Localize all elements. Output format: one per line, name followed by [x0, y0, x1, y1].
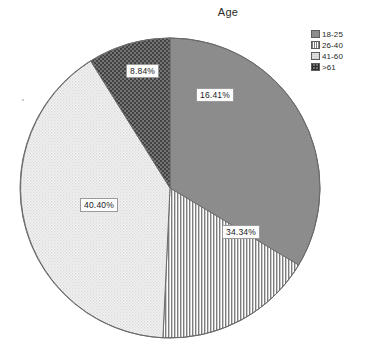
slice-label-26-40: 34.34% — [222, 225, 260, 239]
legend-item-26-40[interactable]: 26-40 — [311, 40, 343, 50]
legend-item-41-60[interactable]: 41-60 — [311, 51, 343, 61]
chart-legend: 18-25 26-40 41-60 >61 — [311, 29, 343, 72]
dark-dotted-swatch-icon — [311, 63, 320, 71]
vertical-lines-swatch-icon — [311, 41, 320, 49]
slice-label-41-60: 40.40% — [80, 198, 118, 212]
legend-item-18-25[interactable]: 18-25 — [311, 29, 343, 39]
legend-label-gt61: >61 — [322, 63, 336, 72]
solid-gray-swatch-icon — [311, 30, 320, 38]
legend-label-41-60: 41-60 — [322, 52, 343, 61]
legend-label-26-40: 26-40 — [322, 41, 343, 50]
legend-item-gt61[interactable]: >61 — [311, 62, 343, 72]
legend-label-18-25: 18-25 — [322, 30, 343, 39]
pie-chart-figure: Age — [0, 0, 371, 356]
slice-label-gt61: 8.84% — [126, 64, 159, 78]
light-checker-swatch-icon — [311, 52, 320, 60]
slice-label-18-25: 16.41% — [196, 88, 234, 102]
scan-artifact-speck — [22, 99, 24, 101]
